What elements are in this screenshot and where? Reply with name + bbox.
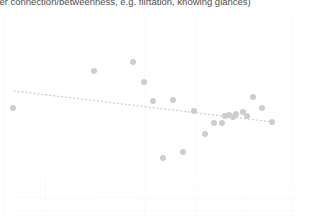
figure-caption: cter connection/betweenness, e.g. flirta… — [0, 0, 251, 8]
scatter-plot — [0, 11, 313, 216]
data-point — [191, 108, 197, 114]
data-point — [91, 68, 97, 74]
data-point — [10, 105, 16, 111]
screenshot-root: cter connection/betweenness, e.g. flirta… — [0, 0, 313, 216]
data-point — [160, 155, 166, 161]
data-point — [259, 105, 265, 111]
data-point — [244, 113, 250, 119]
caption-clip: cter connection/betweenness, e.g. flirta… — [0, 0, 313, 11]
gridline-horizontal — [0, 205, 313, 206]
data-point — [269, 119, 275, 125]
data-point — [180, 149, 186, 155]
data-point — [130, 59, 136, 65]
data-point — [141, 79, 147, 85]
data-point — [233, 111, 239, 117]
data-point — [226, 112, 232, 118]
gridline-vertical — [3, 11, 4, 216]
ghost-rule — [10, 197, 300, 198]
data-point — [150, 98, 156, 104]
data-point — [250, 94, 256, 100]
data-point — [219, 120, 225, 126]
data-point — [202, 131, 208, 137]
ghost-rule — [10, 210, 300, 211]
data-point — [211, 120, 217, 126]
data-point — [170, 97, 176, 103]
